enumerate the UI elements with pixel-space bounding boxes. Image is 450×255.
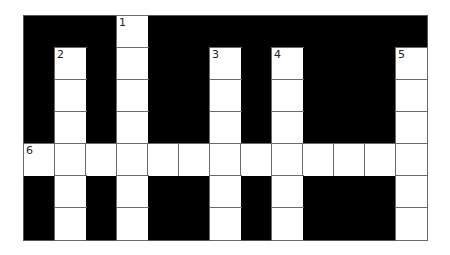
block-cell (24, 48, 55, 80)
block-cell (334, 112, 365, 144)
block-cell (86, 176, 117, 208)
block-cell (365, 112, 396, 144)
crossword-cell[interactable] (396, 144, 427, 176)
clue-number: 4 (274, 48, 281, 61)
block-cell (303, 208, 334, 240)
block-cell (272, 16, 303, 48)
crossword-cell[interactable]: 1 (117, 16, 148, 48)
block-cell (241, 176, 272, 208)
block-cell (365, 208, 396, 240)
block-cell (334, 16, 365, 48)
crossword-cell[interactable] (365, 144, 396, 176)
crossword-cell[interactable] (396, 112, 427, 144)
crossword-cell[interactable] (272, 176, 303, 208)
block-cell (86, 112, 117, 144)
block-cell (179, 176, 210, 208)
block-cell (179, 16, 210, 48)
crossword-grid: 123456 (23, 15, 428, 241)
clue-number: 2 (57, 48, 64, 61)
crossword-cell[interactable] (396, 208, 427, 240)
crossword-cell[interactable] (272, 80, 303, 112)
crossword-cell[interactable] (55, 80, 86, 112)
crossword-cell[interactable]: 2 (55, 48, 86, 80)
crossword-cell[interactable] (148, 144, 179, 176)
block-cell (86, 80, 117, 112)
crossword-cell[interactable] (210, 80, 241, 112)
crossword-cell[interactable] (86, 144, 117, 176)
block-cell (396, 16, 427, 48)
crossword-cell[interactable] (303, 144, 334, 176)
crossword-cell[interactable] (179, 144, 210, 176)
block-cell (86, 48, 117, 80)
block-cell (86, 208, 117, 240)
crossword-cell[interactable] (55, 144, 86, 176)
crossword-cell[interactable]: 6 (24, 144, 55, 176)
block-cell (303, 176, 334, 208)
crossword-cell[interactable] (55, 176, 86, 208)
crossword-cell[interactable] (272, 112, 303, 144)
clue-number: 5 (398, 48, 405, 61)
crossword-cell[interactable] (117, 48, 148, 80)
crossword-cell[interactable] (396, 80, 427, 112)
block-cell (86, 16, 117, 48)
crossword-cell[interactable] (55, 112, 86, 144)
block-cell (179, 48, 210, 80)
block-cell (303, 16, 334, 48)
crossword-cell[interactable]: 4 (272, 48, 303, 80)
crossword-cell[interactable]: 3 (210, 48, 241, 80)
clue-number: 3 (212, 48, 219, 61)
block-cell (24, 112, 55, 144)
block-cell (24, 16, 55, 48)
crossword-cell[interactable] (210, 176, 241, 208)
crossword-cell[interactable] (241, 144, 272, 176)
block-cell (148, 48, 179, 80)
block-cell (303, 80, 334, 112)
block-cell (179, 208, 210, 240)
block-cell (365, 80, 396, 112)
block-cell (365, 176, 396, 208)
block-cell (148, 112, 179, 144)
crossword-cell[interactable] (117, 144, 148, 176)
block-cell (210, 16, 241, 48)
block-cell (148, 80, 179, 112)
clue-number: 6 (26, 144, 33, 157)
block-cell (241, 48, 272, 80)
block-cell (179, 80, 210, 112)
crossword-cell[interactable] (396, 176, 427, 208)
block-cell (241, 208, 272, 240)
block-cell (303, 48, 334, 80)
block-cell (148, 16, 179, 48)
crossword-cell[interactable] (272, 144, 303, 176)
crossword-cell[interactable] (210, 144, 241, 176)
block-cell (365, 48, 396, 80)
block-cell (241, 112, 272, 144)
crossword-cell[interactable] (117, 112, 148, 144)
crossword-cell[interactable] (210, 112, 241, 144)
block-cell (334, 80, 365, 112)
crossword-cell[interactable] (334, 144, 365, 176)
crossword-cell[interactable] (117, 208, 148, 240)
crossword-cell[interactable] (210, 208, 241, 240)
block-cell (179, 112, 210, 144)
crossword-cell[interactable] (272, 208, 303, 240)
crossword-cell[interactable] (117, 80, 148, 112)
block-cell (334, 48, 365, 80)
block-cell (148, 176, 179, 208)
block-cell (148, 208, 179, 240)
block-cell (241, 16, 272, 48)
block-cell (24, 176, 55, 208)
block-cell (55, 16, 86, 48)
crossword-cell[interactable]: 5 (396, 48, 427, 80)
block-cell (303, 112, 334, 144)
block-cell (334, 208, 365, 240)
block-cell (365, 16, 396, 48)
clue-number: 1 (119, 16, 126, 29)
block-cell (241, 80, 272, 112)
crossword-cell[interactable] (55, 208, 86, 240)
block-cell (334, 176, 365, 208)
crossword-cell[interactable] (117, 176, 148, 208)
block-cell (24, 80, 55, 112)
block-cell (24, 208, 55, 240)
